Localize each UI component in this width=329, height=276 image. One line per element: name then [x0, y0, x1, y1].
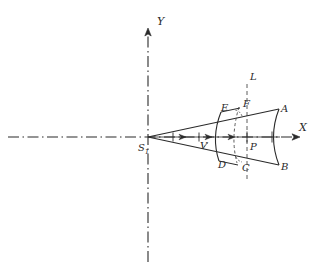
- construction-line-label-L: L: [250, 72, 257, 82]
- y-axis-arrowhead: [145, 28, 151, 36]
- point-label-A: A: [281, 104, 288, 114]
- point-label-C: C: [242, 163, 250, 173]
- origin-label-s1: S1: [138, 143, 149, 156]
- angle-arc-at-F: [235, 110, 242, 116]
- point-label-F: F: [243, 99, 250, 109]
- x-axis-arrowhead: [292, 134, 300, 140]
- wavefront-arc-middle-CPF: [234, 107, 239, 163]
- point-label-B: B: [281, 162, 288, 172]
- cone-ray-lower: [148, 137, 279, 165]
- diagram-canvas: [0, 0, 329, 276]
- y-axis-label: Y: [157, 16, 164, 27]
- point-label-E: E: [221, 103, 228, 113]
- wavefront-diagram-figure: X Y S1 A B C D E F L P V: [0, 0, 329, 276]
- point-label-V: V: [200, 141, 207, 151]
- point-label-D: D: [218, 160, 226, 170]
- cone-ray-upper: [148, 109, 279, 137]
- origin-label-subscript: 1: [145, 148, 149, 156]
- origin-label-letter: S: [138, 142, 145, 153]
- point-label-P: P: [250, 142, 257, 152]
- x-axis-label: X: [299, 122, 307, 133]
